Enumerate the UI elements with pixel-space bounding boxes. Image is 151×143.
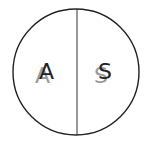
right-half-label-group: S S (94, 59, 111, 88)
outer-circle (13, 9, 139, 135)
right-label: S (98, 59, 111, 84)
split-circle-diagram: A A S S (0, 0, 151, 143)
left-label: A (39, 59, 54, 84)
left-half-label-group: A A (35, 59, 54, 88)
